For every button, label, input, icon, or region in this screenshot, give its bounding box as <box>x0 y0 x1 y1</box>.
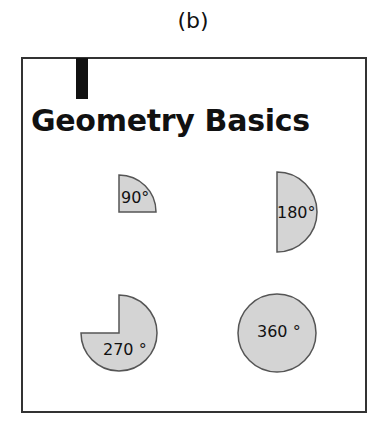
angle-shapes <box>0 0 386 422</box>
label-360: 360 ° <box>257 322 301 341</box>
label-270: 270 ° <box>103 340 147 359</box>
label-180: 180° <box>277 203 316 222</box>
three-quarter-circle-shape <box>81 295 157 371</box>
label-90: 90° <box>121 188 149 207</box>
